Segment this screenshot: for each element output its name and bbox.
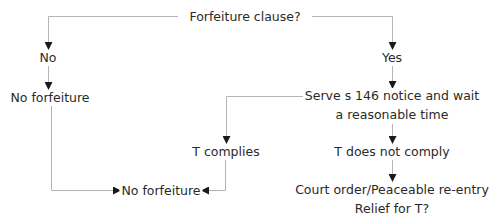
edge-serve-to-complies — [227, 97, 319, 141]
node-court-order: Court order/Peaceable re-entry — [293, 182, 491, 197]
edge-root-to-yes — [312, 17, 393, 47]
node-relief-for-t: Relief for T? — [353, 201, 431, 216]
node-serve-line1: Serve s 146 notice and wait — [303, 88, 481, 103]
node-t-does-not-comply: T does not comply — [332, 144, 451, 159]
node-forfeiture-clause: Forfeiture clause? — [187, 9, 302, 24]
node-serve-line2: a reasonable time — [334, 107, 451, 122]
node-no-forfeiture-bottom: No forfeiture — [119, 183, 202, 198]
edge-root-to-no — [49, 17, 179, 47]
edge-noforfeiture-to-bottom — [52, 106, 118, 191]
node-no-forfeiture-left: No forfeiture — [8, 90, 91, 105]
node-yes: Yes — [380, 50, 404, 65]
node-t-complies: T complies — [190, 144, 261, 159]
edge-complies-to-bottom — [205, 160, 226, 191]
node-no: No — [38, 50, 59, 65]
